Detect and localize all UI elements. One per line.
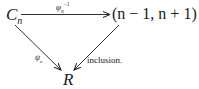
- top-label-sub: n: [61, 8, 64, 14]
- node-interval-text: (n − 1, n + 1): [112, 5, 197, 22]
- top-arrow-label: φn−1: [56, 3, 69, 12]
- left-arrow-label: ψn: [35, 54, 42, 62]
- node-c-sub: n: [17, 15, 22, 26]
- top-label-sup: −1: [64, 1, 70, 7]
- right-arrow-label: inclusion.: [87, 56, 122, 65]
- node-c-n: Cn: [6, 6, 22, 23]
- right-label-text: inclusion.: [87, 55, 122, 65]
- node-c-main: C: [6, 5, 17, 24]
- node-r: R: [63, 71, 73, 88]
- node-interval: (n − 1, n + 1): [112, 6, 197, 22]
- left-arrow: [15, 25, 61, 70]
- left-label-sub: n: [40, 59, 42, 64]
- node-r-text: R: [63, 70, 73, 89]
